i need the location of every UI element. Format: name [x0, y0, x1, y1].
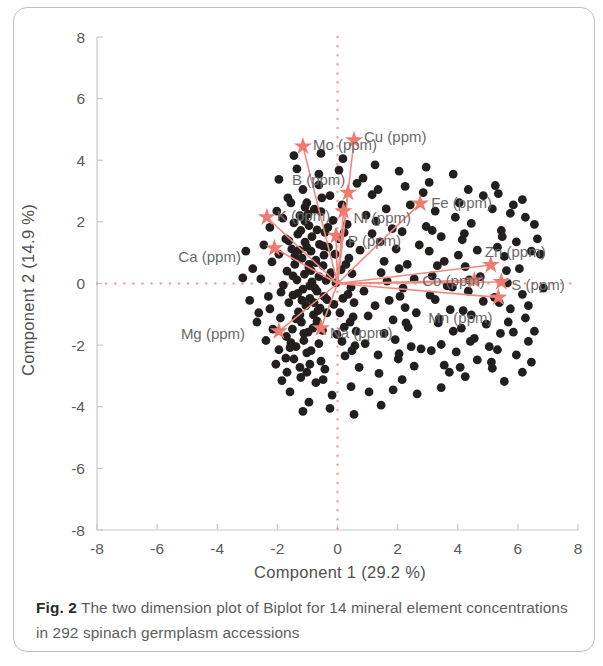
- score-point: [496, 329, 505, 338]
- score-point: [293, 289, 302, 298]
- score-point: [401, 182, 410, 191]
- score-point: [437, 340, 446, 349]
- score-point: [256, 274, 265, 283]
- score-point: [289, 271, 298, 280]
- score-point: [498, 232, 507, 241]
- loading-vector-label: P (ppm): [348, 232, 401, 249]
- score-point: [422, 163, 431, 172]
- score-point: [374, 351, 383, 360]
- score-point: [518, 195, 527, 204]
- y-axis-title: Component 2 (14.9 %): [19, 204, 37, 376]
- score-point: [302, 243, 311, 252]
- y-tick-label: 2: [76, 213, 85, 230]
- figure-caption: Fig. 2 The two dimension plot of Biplot …: [36, 596, 576, 646]
- score-point: [371, 160, 380, 169]
- score-point: [238, 274, 247, 283]
- score-point: [314, 339, 323, 348]
- loading-vector-label: Mg (ppm): [181, 325, 245, 342]
- score-point: [395, 264, 404, 273]
- score-point: [440, 361, 449, 370]
- score-point: [344, 290, 353, 299]
- score-point: [509, 328, 518, 337]
- score-point: [326, 404, 335, 413]
- score-point: [464, 185, 473, 194]
- score-point: [415, 241, 424, 250]
- loading-vector-label: K (ppm): [277, 207, 330, 224]
- score-point: [265, 223, 274, 232]
- score-point: [385, 296, 394, 305]
- score-point: [460, 229, 469, 238]
- score-point: [389, 315, 398, 324]
- score-point: [425, 178, 434, 187]
- loading-vector-label: B (ppm): [292, 171, 345, 188]
- score-point: [494, 189, 503, 198]
- score-point: [452, 348, 461, 357]
- loading-vector-label: Co (ppm): [422, 272, 485, 289]
- score-point: [389, 385, 398, 394]
- score-point: [286, 343, 295, 352]
- score-point: [268, 258, 277, 267]
- score-point: [305, 398, 314, 407]
- score-point: [413, 389, 422, 398]
- score-point: [524, 301, 533, 310]
- score-point: [274, 345, 283, 354]
- score-point: [265, 304, 274, 313]
- score-point: [302, 348, 311, 357]
- x-tick-label: 8: [574, 540, 583, 557]
- loading-vector-label: Mn (ppm): [428, 309, 492, 326]
- x-tick-label: -8: [90, 540, 104, 557]
- score-point: [521, 213, 530, 222]
- score-point: [530, 327, 539, 336]
- score-point: [320, 251, 329, 260]
- x-tick-label: 0: [333, 540, 342, 557]
- loading-vector-label: Cu (ppm): [364, 128, 427, 145]
- score-point: [502, 266, 511, 275]
- score-point: [485, 342, 494, 351]
- score-point: [353, 179, 362, 188]
- x-tick-label: -4: [210, 540, 224, 557]
- score-point: [479, 297, 488, 306]
- y-tick-label: -8: [71, 522, 85, 539]
- score-point: [506, 209, 515, 218]
- loading-vector-label: S (ppm): [511, 276, 564, 293]
- score-point: [288, 325, 297, 334]
- score-point: [380, 257, 389, 266]
- score-point: [262, 336, 271, 345]
- score-point: [493, 345, 502, 354]
- score-point: [445, 368, 454, 377]
- score-point: [461, 372, 470, 381]
- figure-number: Fig. 2: [36, 599, 77, 616]
- score-point: [527, 358, 536, 367]
- score-point: [395, 349, 404, 358]
- score-point: [437, 232, 446, 241]
- score-point: [287, 198, 296, 207]
- score-point: [311, 284, 320, 293]
- score-point: [449, 170, 458, 179]
- score-point: [308, 232, 317, 241]
- score-point: [487, 358, 496, 367]
- score-point: [500, 377, 509, 386]
- score-point: [331, 250, 340, 259]
- loading-vector-marker: [294, 137, 312, 154]
- score-point: [396, 292, 405, 301]
- score-point: [402, 319, 411, 328]
- score-point: [449, 327, 458, 336]
- score-point: [437, 383, 446, 392]
- score-point: [473, 246, 482, 255]
- score-point: [521, 314, 530, 323]
- score-point: [401, 303, 410, 312]
- loading-vector-label: Ni (ppm): [354, 209, 412, 226]
- loading-vector-label: Ca (ppm): [178, 248, 241, 265]
- score-point: [512, 351, 521, 360]
- score-point: [342, 260, 351, 269]
- score-point: [302, 368, 311, 377]
- score-point: [398, 375, 407, 384]
- score-point: [241, 247, 250, 256]
- y-tick-label: -6: [71, 460, 85, 477]
- score-point: [466, 337, 475, 346]
- score-point: [305, 360, 314, 369]
- y-tick-label: 4: [76, 152, 85, 169]
- figure-root: Mo (ppm)Cu (ppm)B (ppm)Fe (ppm)K (ppm)Ni…: [0, 0, 603, 666]
- loading-vector-label: Zn (ppm): [485, 243, 546, 260]
- score-point: [427, 346, 436, 355]
